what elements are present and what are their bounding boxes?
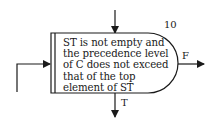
false-branch-label: F xyxy=(182,50,189,61)
decision-node-text: ST is not empty and the precedence level… xyxy=(63,37,175,93)
node-number-label: 10 xyxy=(164,19,177,30)
node-text-line: the precedence level xyxy=(63,48,175,59)
incoming-connector-left xyxy=(17,64,50,92)
node-text-line: of C does not exceed xyxy=(63,59,175,70)
node-text-line: ST is not empty and xyxy=(63,37,175,48)
node-text-line: element of ST xyxy=(63,82,175,93)
true-branch-label: T xyxy=(121,97,128,108)
node-text-line: that of the top xyxy=(63,71,175,82)
